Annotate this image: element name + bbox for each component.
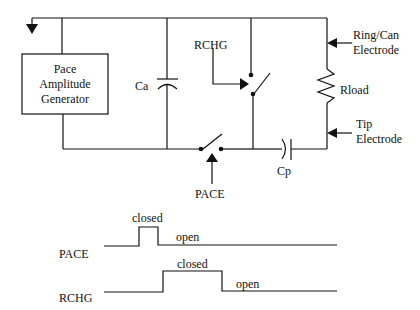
ring-electrode-arrow-icon	[327, 38, 337, 48]
rchg-timing-label: RCHG	[59, 292, 92, 304]
generator-label-line2: Amplitude	[22, 78, 108, 90]
pace-waveform	[104, 227, 337, 246]
tip-electrode-label-line1: Tip	[356, 118, 372, 130]
rchg-label: RCHG	[194, 39, 227, 51]
tip-electrode-label-line2: Electrode	[356, 133, 402, 145]
rchg-open-label: open	[236, 278, 259, 290]
ring-electrode-label-line2: Electrode	[353, 44, 399, 56]
rchg-switch-blade	[253, 73, 270, 95]
pace-arrow-icon	[206, 153, 218, 162]
pace-label: PACE	[195, 188, 225, 200]
ca-label: Ca	[135, 80, 148, 92]
pace-closed-label: closed	[132, 212, 163, 224]
rchg-waveform	[104, 271, 337, 292]
ring-electrode-label-line1: Ring/Can	[353, 29, 399, 41]
pace-timing-label: PACE	[59, 248, 89, 260]
pace-open-label: open	[176, 231, 199, 243]
rload-label: Rload	[340, 84, 369, 96]
ground-arrow-icon	[26, 24, 38, 34]
pacing-circuit-diagram: Pace Amplitude Generator Ca RCHG Rload C…	[0, 0, 420, 310]
cp-label: Cp	[277, 165, 291, 177]
generator-label-line3: Generator	[22, 93, 108, 105]
cp-capacitor-curved-plate	[282, 139, 286, 159]
rload-resistor	[318, 69, 334, 103]
generator-label-line1: Pace	[22, 63, 108, 75]
rchg-closed-label: closed	[177, 258, 208, 270]
tip-electrode-arrow-icon	[327, 128, 337, 138]
rchg-arrow-icon	[240, 78, 249, 90]
timing-waveforms	[104, 227, 337, 292]
pace-switch-blade	[203, 134, 222, 149]
